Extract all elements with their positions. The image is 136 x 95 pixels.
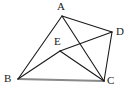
vertex-label-e: E	[54, 36, 61, 47]
segment-eb	[18, 51, 60, 79]
vertex-label-a: A	[57, 1, 65, 12]
geometry-figure: A D E B C	[0, 0, 136, 95]
vertex-label-d: D	[116, 26, 124, 37]
segment-ed	[60, 32, 112, 51]
segment-bc	[18, 79, 104, 81]
vertex-label-b: B	[4, 73, 11, 84]
segment-ec	[60, 51, 104, 81]
segment-ad	[62, 16, 112, 32]
figure-canvas	[0, 0, 136, 95]
vertex-label-c: C	[107, 75, 114, 86]
segment-ab	[18, 16, 62, 79]
